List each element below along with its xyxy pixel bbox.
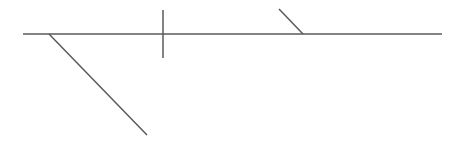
- object-complement-slant: [279, 9, 303, 34]
- sentence-diagram: [0, 0, 463, 142]
- modifier-slant-left: [49, 34, 147, 135]
